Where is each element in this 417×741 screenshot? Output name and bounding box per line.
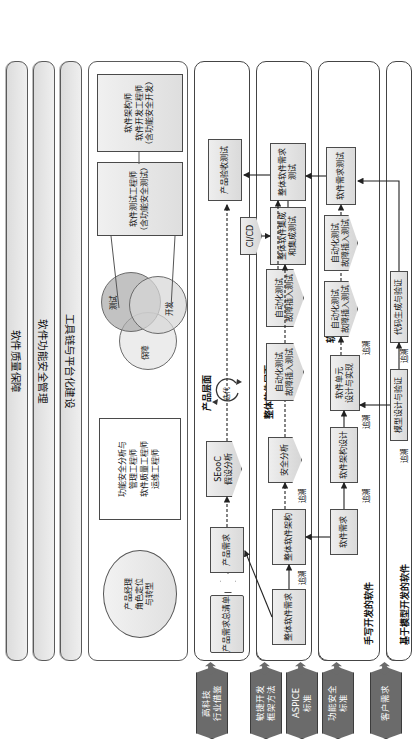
software-architect-dev-box: 软件架构师 软件开发工程师 （含功能安全开发）	[97, 74, 183, 152]
diagram-stage: 软件质量保障 软件功能安全管理 工具链与平台化建设 产品经理 角色定位 与转型 …	[0, 0, 417, 741]
node-code-gen-verify: 代码生成与验证	[390, 271, 408, 343]
input-arrow-agile-framework: 敏捷开发 框架方法	[250, 667, 282, 739]
node-product-acceptance-test: 产品验收测试	[208, 139, 242, 201]
diagram-canvas: 软件质量保障 软件功能安全管理 工具链与平台化建设 产品经理 角色定位 与转型 …	[0, 0, 417, 741]
product-manager-role-ellipse: 产品经理 角色定位 与转型	[103, 550, 177, 638]
node-whole-sw-arch: 整体软件架构	[272, 509, 306, 565]
node-model-design-verify: 模型设计与验证	[390, 369, 408, 441]
node-sw-arch-design: 软件架构设计	[330, 427, 358, 483]
fusa-quality-ops-roles-box: 功能安全分析与 管理工程师 软件质量工程师 运维工程师	[99, 418, 181, 520]
lane-footer-handwritten-software: 手写开发的软件	[362, 582, 375, 645]
top-bar-fusa-management: 软件功能安全管理	[33, 61, 55, 661]
lane-footer-model-based-software: 基于模型开发的软件	[398, 564, 411, 645]
input-arrow-aspice: ASPICE 标准	[286, 667, 318, 739]
trace-label-sw-1: 追溯	[360, 489, 371, 503]
node-product-req: 产品需求	[210, 527, 244, 573]
node-product-req-backlog: 产品需求总清单	[210, 595, 244, 653]
input-arrow-customer-needs: 客户需求	[370, 667, 402, 739]
trace-label-model-2: 追溯	[398, 349, 409, 363]
lane-title-product: 产品层面	[200, 375, 213, 411]
node-whole-sw-req: 整体软件需求	[272, 589, 306, 645]
trace-label-whole-2: 追溯	[296, 489, 307, 503]
node-sw-req: 软件需求	[330, 509, 358, 555]
roles-panel: 产品经理 角色定位 与转型 功能安全分析与 管理工程师 软件质量工程师 运维工程…	[88, 61, 188, 661]
software-test-engineer-box: 软件测试工程师 （含功能安全测试）	[97, 162, 183, 236]
trace-label-sw-2: 追溯	[360, 415, 371, 429]
venn-label-test: 测试	[109, 290, 118, 316]
venn-circle-dev	[129, 276, 187, 334]
roles-venn-diagram: 测试 保障 开发	[97, 254, 183, 372]
trace-label-model-1: 追溯	[398, 449, 409, 463]
venn-label-dev: 开发	[165, 296, 174, 322]
venn-label-assurance: 保障	[141, 340, 150, 366]
top-bar-toolchain: 工具链与平台化建设	[60, 61, 82, 661]
node-whole-sw-req-test: 整体软件需求 测试	[270, 143, 306, 201]
trace-label-sw-3: 追溯	[360, 341, 371, 355]
iteration-label-product: 迭代	[224, 383, 232, 405]
top-bar-quality: 软件质量保障	[6, 61, 28, 661]
node-whole-sw-integration-test: 整体软件集成 和集成测试	[270, 207, 306, 265]
node-sw-req-test: 软件需求测试	[326, 147, 356, 205]
input-arrow-high-tech: 高科技 行业借鉴	[196, 667, 228, 739]
input-arrow-fusa-standard: 功能安全 标准	[322, 667, 354, 739]
trace-label-whole-1: 追溯	[296, 571, 307, 585]
node-sw-unit-design-impl: 软件单元 设计与实现	[330, 355, 360, 411]
